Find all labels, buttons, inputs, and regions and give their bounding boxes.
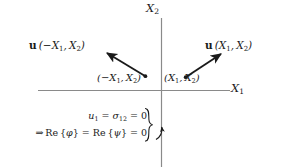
axis-label-x1: X1 [231,83,244,95]
symmetry-vector-diagram: X2 X1 u (−X1, X2) u (X1, X2) (−X1, X2) (… [0,0,289,167]
axis-label-x1-text: X1 [231,81,244,95]
vector-tail-dot-mirrored [144,74,148,78]
point-label-mirrored-text: (−X1, X2) [97,72,141,83]
vector-argument-original: (X1, X2) [213,39,253,51]
vector-symbol-u-original: u [205,39,213,51]
point-label-mirrored: (−X1, X2) [97,73,141,83]
condition-line-1: u1 = σ12 = 0 [6,110,151,121]
diagram-graphics-layer [0,0,289,167]
vector-label-mirrored: u (−X1, X2) [29,40,85,51]
condition-block: u1 = σ12 = 0 ⇒ Re {φ} = Re {ψ} = 0 [6,110,151,138]
axis-label-x2-text: X2 [146,1,159,15]
vector-label-original: u (X1, X2) [205,40,252,51]
point-label-original-text: (X1, X2) [164,72,200,83]
vector-argument-mirrored: (−X1, X2) [37,39,85,51]
point-label-original: (X1, X2) [164,73,200,83]
axis-label-x2: X2 [146,3,159,15]
vector-symbol-u-mirrored: u [29,39,37,51]
condition-line-2: ⇒ Re {φ} = Re {ψ} = 0 [6,127,151,138]
